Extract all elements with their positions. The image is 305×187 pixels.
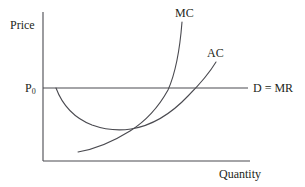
x-axis-label: Quantity [219, 168, 261, 180]
y-axis-label: Price [10, 19, 35, 31]
ac-curve [56, 62, 216, 130]
mc-curve-label: MC [175, 7, 194, 19]
cost-curve-figure: Price Quantity P0 MC AC D = MR [0, 0, 305, 187]
mc-curve [78, 22, 182, 152]
p0-base: P [25, 81, 32, 95]
p0-subscript: 0 [32, 87, 36, 96]
ac-curve-label: AC [207, 47, 224, 59]
price-p0-tick-label: P0 [25, 82, 36, 94]
demand-mr-label: D = MR [253, 82, 293, 94]
